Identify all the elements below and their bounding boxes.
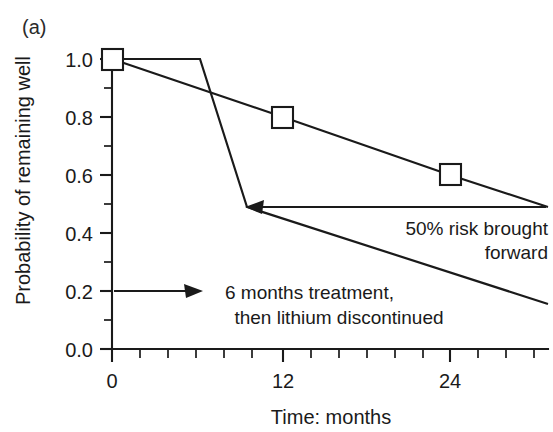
y-tick-label-0-0: 0.0 — [65, 339, 93, 361]
treatment-annotation-line1: 6 months treatment, — [225, 282, 394, 303]
x-axis-tick-labels: 0 12 24 — [106, 370, 461, 392]
risk-annotation-line1: 50% risk brought — [405, 218, 548, 239]
risk-annotation-line2: forward — [485, 242, 548, 263]
risk-arrow-head-icon — [245, 200, 264, 214]
panel-label: (a) — [22, 16, 46, 38]
curve-lithium-discontinued — [112, 59, 548, 304]
survival-curve-chart: (a) Probability of remaining well Time: … — [0, 0, 553, 432]
x-axis-title: Time: months — [271, 406, 391, 428]
annotation-treatment-period: 6 months treatment, then lithium discont… — [114, 282, 444, 328]
y-axis-tick-labels: 1.0 0.8 0.6 0.4 0.2 0.0 — [65, 49, 93, 361]
curve-natural-course — [112, 59, 548, 207]
data-point-markers — [102, 49, 461, 185]
y-tick-label-0-4: 0.4 — [65, 223, 93, 245]
annotation-risk-brought-forward: 50% risk brought forward — [245, 200, 549, 263]
y-axis-title: Probability of remaining well — [12, 56, 34, 305]
marker-month-24 — [440, 164, 461, 185]
x-tick-label-12: 12 — [272, 370, 294, 392]
treatment-annotation-line2: then lithium discontinued — [234, 307, 443, 328]
treatment-arrow-head-icon — [184, 284, 203, 298]
marker-month-0 — [102, 49, 123, 70]
y-tick-label-0-8: 0.8 — [65, 107, 93, 129]
y-tick-label-0-2: 0.2 — [65, 281, 93, 303]
x-tick-label-0: 0 — [106, 370, 117, 392]
figure-container: (a) Probability of remaining well Time: … — [0, 0, 553, 432]
x-tick-label-24: 24 — [439, 370, 461, 392]
y-tick-label-0-6: 0.6 — [65, 165, 93, 187]
marker-month-12 — [272, 107, 293, 128]
y-axis-ticks — [100, 59, 112, 349]
axes — [112, 57, 548, 349]
x-axis-ticks — [112, 349, 534, 362]
y-tick-label-1-0: 1.0 — [65, 49, 93, 71]
